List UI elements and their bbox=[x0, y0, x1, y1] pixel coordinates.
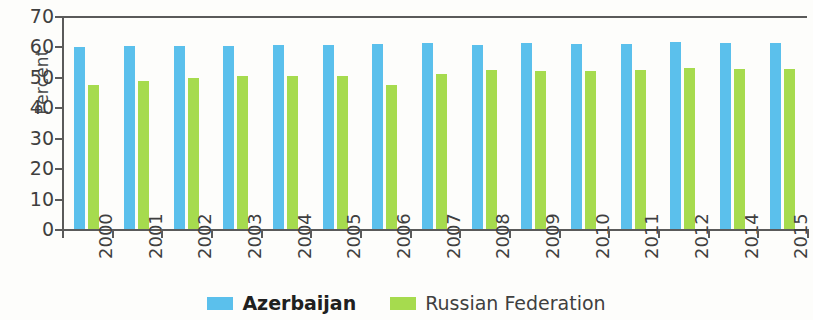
bar-azerbaijan-2012 bbox=[670, 42, 681, 229]
x-tick-mark bbox=[410, 229, 412, 238]
y-tick-mark bbox=[55, 107, 63, 109]
x-tick-mark bbox=[310, 229, 312, 238]
x-tick-mark bbox=[807, 229, 809, 238]
bar-azerbaijan-2006 bbox=[372, 44, 383, 229]
legend-label: Russian Federation bbox=[425, 292, 605, 314]
bar-azerbaijan-2005 bbox=[323, 45, 334, 229]
x-tick-mark bbox=[211, 229, 213, 238]
bar-azerbaijan-2008 bbox=[472, 45, 483, 229]
y-axis-tick-60: 60 bbox=[10, 37, 54, 56]
x-axis-label-2009: 2009 bbox=[542, 197, 563, 259]
y-axis-tick-20: 20 bbox=[10, 159, 54, 178]
x-axis-label-2006: 2006 bbox=[393, 197, 414, 259]
bar-chart: Percent 010203040506070 2000200120022003… bbox=[0, 0, 813, 320]
y-axis-tick-50: 50 bbox=[10, 67, 54, 86]
y-tick-mark bbox=[55, 77, 63, 79]
x-axis: 2000200120022003200420052006200720082009… bbox=[62, 229, 807, 291]
x-tick-mark bbox=[509, 229, 511, 238]
x-tick-mark bbox=[608, 229, 610, 238]
x-tick-mark bbox=[708, 229, 710, 238]
y-axis-tick-10: 10 bbox=[10, 189, 54, 208]
green-swatch-icon bbox=[390, 297, 416, 310]
y-tick-mark bbox=[55, 138, 63, 140]
x-axis-label-2001: 2001 bbox=[145, 197, 166, 259]
legend-item-russian-federation[interactable]: Russian Federation bbox=[390, 292, 605, 314]
x-axis-label-2015: 2015 bbox=[790, 197, 811, 259]
x-axis-label-2002: 2002 bbox=[194, 197, 215, 259]
bar-azerbaijan-2003 bbox=[223, 46, 234, 229]
x-tick-mark bbox=[161, 229, 163, 238]
y-tick-mark bbox=[55, 16, 63, 18]
y-axis-tick-40: 40 bbox=[10, 98, 54, 117]
bar-azerbaijan-2002 bbox=[174, 46, 185, 229]
x-axis-label-2007: 2007 bbox=[443, 197, 464, 259]
bar-azerbaijan-2014 bbox=[720, 43, 731, 229]
legend-item-azerbaijan[interactable]: Azerbaijan bbox=[207, 292, 356, 314]
x-tick-mark bbox=[757, 229, 759, 238]
y-axis-tick-70: 70 bbox=[10, 7, 54, 26]
x-tick-mark bbox=[360, 229, 362, 238]
bar-azerbaijan-2000 bbox=[74, 47, 85, 229]
y-axis-tick-0: 0 bbox=[10, 220, 54, 239]
x-axis-label-2014: 2014 bbox=[741, 197, 762, 259]
x-tick-mark bbox=[459, 229, 461, 238]
x-tick-mark bbox=[658, 229, 660, 238]
x-tick-mark bbox=[261, 229, 263, 238]
bar-azerbaijan-2007 bbox=[422, 43, 433, 229]
y-tick-mark bbox=[55, 199, 63, 201]
x-axis-label-2008: 2008 bbox=[492, 197, 513, 259]
x-axis-label-2000: 2000 bbox=[95, 197, 116, 259]
x-axis-label-2003: 2003 bbox=[244, 197, 265, 259]
bar-azerbaijan-2015 bbox=[770, 43, 781, 229]
y-axis-tick-30: 30 bbox=[10, 128, 54, 147]
blue-swatch-icon bbox=[207, 297, 233, 310]
y-tick-mark bbox=[55, 46, 63, 48]
x-tick-mark bbox=[559, 229, 561, 238]
y-axis-tick-labels: 010203040506070 bbox=[8, 0, 54, 320]
chart-legend: AzerbaijanRussian Federation bbox=[0, 292, 813, 314]
x-tick-mark bbox=[62, 229, 64, 238]
bar-azerbaijan-2011 bbox=[621, 44, 632, 229]
bar-azerbaijan-2009 bbox=[521, 43, 532, 229]
bar-azerbaijan-2010 bbox=[571, 44, 582, 229]
x-axis-label-2012: 2012 bbox=[691, 197, 712, 259]
bar-azerbaijan-2004 bbox=[273, 45, 284, 229]
y-tick-mark bbox=[55, 168, 63, 170]
bar-azerbaijan-2001 bbox=[124, 46, 135, 229]
x-axis-label-2010: 2010 bbox=[592, 197, 613, 259]
x-axis-label-2011: 2011 bbox=[641, 197, 662, 259]
x-axis-label-2005: 2005 bbox=[343, 197, 364, 259]
x-axis-label-2004: 2004 bbox=[294, 197, 315, 259]
x-tick-mark bbox=[112, 229, 114, 238]
legend-label: Azerbaijan bbox=[242, 292, 356, 314]
